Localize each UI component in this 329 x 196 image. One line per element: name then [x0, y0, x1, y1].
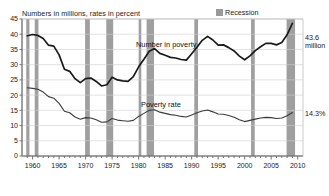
recession-band [85, 19, 90, 156]
y-axis-tick-label: 10 [10, 122, 18, 129]
x-axis-tick-label: 1965 [51, 162, 67, 169]
y-axis: 051015202530354045 [10, 15, 22, 159]
x-axis-tick-label: 1995 [210, 162, 226, 169]
y-axis-tick-label: 15 [10, 107, 18, 114]
annotation-poverty-rate-end: 14.3% [305, 110, 325, 118]
series-label-number-in-poverty: Number in poverty [136, 40, 197, 49]
x-axis-tick-label: 2000 [237, 162, 253, 169]
series-label-poverty-rate: Poverty rate [141, 100, 181, 109]
poverty-chart-figure: Numbers in millions, rates in percent Re… [0, 0, 329, 196]
x-axis-tick-label: 2005 [263, 162, 279, 169]
recession-band [287, 19, 295, 156]
x-axis-tick-label: 1960 [25, 162, 41, 169]
recession-band [106, 19, 113, 156]
x-axis-tick-label: 1980 [131, 162, 147, 169]
x-axis-tick-label: 1985 [157, 162, 173, 169]
x-axis: 1960196519701975198019851990199520002005… [25, 156, 306, 169]
annotation-number-unit: million [305, 42, 325, 50]
legend-label-recession: Recession [225, 8, 259, 17]
chart-plot-area: 0510152025303540451960196519701975198019… [0, 0, 329, 196]
y-axis-tick-label: 20 [10, 92, 18, 99]
y-axis-tick-label: 45 [10, 15, 18, 22]
chart-subtitle: Numbers in millions, rates in percent [22, 9, 140, 18]
recession-swatch-icon [216, 9, 223, 16]
y-axis-tick-label: 40 [10, 31, 18, 38]
annotation-number-in-poverty-end: 43.6 million [305, 34, 325, 51]
x-axis-tick-label: 1975 [104, 162, 120, 169]
x-axis-tick-label: 1970 [78, 162, 94, 169]
recession-band [251, 19, 255, 156]
x-axis-tick-label: 1990 [184, 162, 200, 169]
y-axis-tick-label: 30 [10, 61, 18, 68]
y-axis-tick-label: 5 [14, 137, 18, 144]
y-axis-tick-label: 25 [10, 76, 18, 83]
chart-legend: Recession [216, 8, 259, 17]
recession-band [35, 19, 39, 156]
y-axis-tick-label: 35 [10, 46, 18, 53]
y-axis-tick-label: 0 [14, 152, 18, 159]
x-axis-tick-label: 2010 [290, 162, 306, 169]
